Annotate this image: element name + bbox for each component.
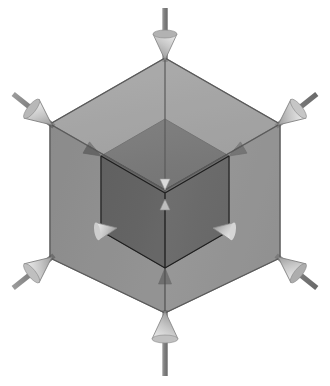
figure-root: Isometric cube under uniform inward comp…	[0, 0, 330, 386]
isometric-cube-diagram	[0, 0, 330, 386]
